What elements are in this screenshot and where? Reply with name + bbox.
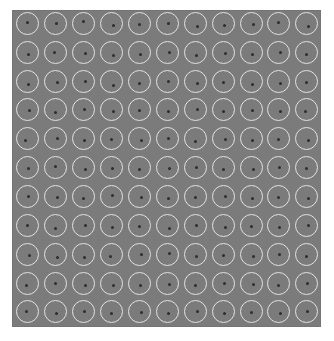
ring-cell (44, 98, 68, 122)
ring-cell (44, 41, 68, 65)
ring-cell (128, 185, 152, 209)
dot-icon (223, 282, 226, 285)
ring-icon (184, 12, 207, 35)
dot-icon (195, 54, 198, 57)
dot-icon (82, 197, 85, 200)
dot-icon (304, 110, 307, 113)
ring-cell (156, 12, 180, 36)
dot-icon (305, 81, 308, 84)
dot-icon (305, 167, 308, 170)
dot-icon (54, 282, 57, 285)
dot-icon (251, 197, 254, 200)
ring-cell (16, 300, 40, 324)
ring-cell (295, 127, 319, 151)
ring-icon (16, 272, 39, 295)
dot-icon (222, 254, 225, 257)
ring-cell (16, 243, 40, 267)
ring-cell (212, 243, 236, 267)
dot-icon (223, 24, 226, 27)
dot-icon (252, 168, 255, 171)
dot-icon (138, 23, 141, 26)
dot-icon (109, 255, 112, 258)
ring-cell (267, 41, 291, 65)
dot-icon (53, 51, 56, 54)
ring-cell (295, 98, 319, 122)
ring-cell (44, 127, 68, 151)
dot-icon (222, 168, 225, 171)
dot-icon (307, 25, 310, 28)
dot-icon (56, 81, 59, 84)
ring-icon (44, 98, 67, 121)
ring-cell (72, 272, 96, 296)
ring-cell (128, 12, 152, 36)
ring-cell (267, 156, 291, 180)
ring-cell (100, 272, 124, 296)
ring-cell (240, 70, 264, 94)
ring-cell (240, 12, 264, 36)
ring-cell (16, 156, 40, 180)
ring-cell (156, 243, 180, 267)
ring-icon (100, 41, 123, 64)
ring-cell (100, 185, 124, 209)
dot-icon (307, 224, 310, 227)
dot-icon (277, 21, 280, 24)
ring-cell (72, 12, 96, 36)
ring-cell (212, 12, 236, 36)
ring-cell (295, 41, 319, 65)
ring-icon (184, 41, 207, 64)
dot-icon (25, 310, 28, 313)
ring-icon (44, 243, 67, 266)
dot-icon (224, 226, 227, 229)
dot-icon (112, 24, 115, 27)
dot-icon (26, 21, 29, 24)
dot-icon (168, 51, 171, 54)
dot-icon (224, 138, 227, 141)
ring-cell (267, 300, 291, 324)
dot-icon (28, 254, 31, 257)
dot-icon (195, 224, 198, 227)
dot-icon (112, 284, 115, 287)
dot-icon (56, 137, 59, 140)
dot-icon (279, 51, 282, 54)
ring-cell (184, 12, 208, 36)
ring-cell (72, 70, 96, 94)
ring-cell (156, 214, 180, 238)
ring-cell (44, 156, 68, 180)
ring-cell (295, 243, 319, 267)
ring-icon (44, 214, 67, 237)
dot-icon (139, 53, 142, 56)
dot-icon (223, 312, 226, 315)
dot-icon (54, 165, 57, 168)
ring-cell (156, 70, 180, 94)
dot-icon (27, 83, 30, 86)
dot-icon (251, 53, 254, 56)
ring-cell (212, 70, 236, 94)
dot-icon (84, 80, 87, 83)
dot-icon (167, 110, 170, 113)
dot-icon (306, 310, 309, 313)
ring-cell (100, 243, 124, 267)
dot-icon (83, 256, 86, 259)
dot-icon (110, 312, 113, 315)
dot-icon (278, 166, 281, 169)
dot-icon (222, 110, 225, 113)
dot-icon (139, 284, 142, 287)
ring-cell (128, 41, 152, 65)
ring-cell (100, 41, 124, 65)
ring-cell (128, 127, 152, 151)
dot-icon (140, 196, 143, 199)
ring-cell (72, 41, 96, 65)
ring-cell (100, 300, 124, 324)
ring-cell (212, 98, 236, 122)
ring-cell (128, 272, 152, 296)
ring-cell (240, 214, 264, 238)
dot-icon (25, 284, 28, 287)
ring-cell (16, 214, 40, 238)
ring-cell (100, 156, 124, 180)
ring-cell (44, 185, 68, 209)
dot-icon (167, 80, 170, 83)
ring-cell (156, 156, 180, 180)
ring-icon (44, 41, 67, 64)
ring-icon (72, 12, 95, 35)
dot-icon (27, 167, 30, 170)
